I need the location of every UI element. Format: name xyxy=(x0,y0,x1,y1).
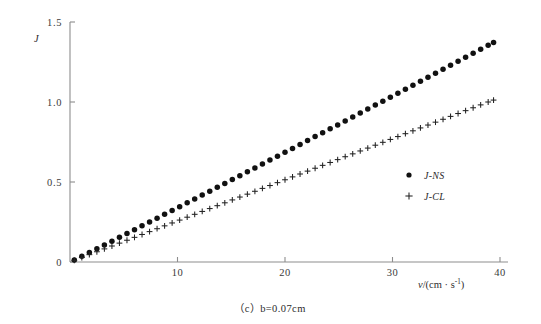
data-point-j-cl xyxy=(244,191,250,197)
data-point-j-ns xyxy=(463,55,469,61)
data-point-j-ns xyxy=(177,204,183,210)
data-point-j-ns xyxy=(192,196,198,202)
y-tick-label: 1.0 xyxy=(47,97,62,108)
data-point-j-ns xyxy=(199,192,205,198)
data-point-j-cl xyxy=(117,240,123,246)
x-tick-label: 30 xyxy=(387,267,399,278)
data-point-j-cl xyxy=(440,116,446,122)
legend-label-j-ns: J-NS xyxy=(424,170,445,181)
data-point-j-cl xyxy=(124,237,130,243)
x-tick-label: 20 xyxy=(279,267,291,278)
data-point-j-ns xyxy=(305,138,311,144)
data-point-j-ns xyxy=(403,86,409,92)
data-point-j-cl xyxy=(410,128,416,134)
data-point-j-cl xyxy=(312,165,318,171)
data-point-j-cl xyxy=(132,234,138,240)
data-point-j-ns xyxy=(395,90,401,96)
legend-marker-plus-icon xyxy=(405,192,412,199)
legend-marker-filled-circle-icon xyxy=(406,172,411,177)
data-point-j-cl xyxy=(162,223,168,229)
data-point-j-cl xyxy=(327,160,333,166)
data-point-j-ns xyxy=(169,208,175,214)
legend: J-NS J-CL xyxy=(405,170,445,202)
figure-container: 00.51.01.5 10203040 J v/(cm · s-1) J-NS … xyxy=(0,0,541,324)
data-point-j-ns xyxy=(275,153,281,159)
data-point-j-cl xyxy=(237,194,243,200)
data-point-j-cl xyxy=(192,211,198,217)
series-j-ns-points xyxy=(72,40,497,263)
data-point-j-cl xyxy=(365,145,371,151)
data-point-j-ns xyxy=(147,219,153,225)
data-point-j-cl xyxy=(222,200,228,206)
data-point-j-ns xyxy=(485,43,491,49)
data-point-j-cl xyxy=(177,217,183,223)
data-point-j-ns xyxy=(373,102,379,108)
data-point-j-cl xyxy=(109,243,115,249)
data-point-j-ns xyxy=(184,200,190,206)
data-point-j-cl xyxy=(418,125,424,131)
data-point-j-ns xyxy=(380,98,386,104)
data-point-j-ns xyxy=(335,122,341,128)
data-point-j-ns xyxy=(455,59,461,65)
figure-caption: （c）b=0.07cm xyxy=(234,303,305,314)
legend-label-j-cl: J-CL xyxy=(424,191,445,202)
x-tick-label: 10 xyxy=(172,267,184,278)
data-point-j-cl xyxy=(357,148,363,154)
data-point-j-cl xyxy=(290,174,296,180)
data-point-j-ns xyxy=(478,47,484,53)
data-point-j-ns xyxy=(342,118,348,124)
data-point-j-ns xyxy=(327,126,333,132)
scatter-plot: 00.51.01.5 10203040 J v/(cm · s-1) J-NS … xyxy=(0,0,541,324)
data-point-j-cl xyxy=(395,134,401,140)
x-axis-label-unit-open: /(cm · s xyxy=(423,279,455,291)
data-point-j-cl xyxy=(139,232,145,238)
data-point-j-cl xyxy=(380,139,386,145)
data-point-j-ns xyxy=(418,79,424,85)
data-point-j-cl xyxy=(154,226,160,232)
data-point-j-ns xyxy=(230,177,236,183)
y-axis-label: J xyxy=(34,33,40,44)
data-point-j-ns xyxy=(154,215,160,221)
data-point-j-cl xyxy=(463,108,469,114)
data-point-j-cl xyxy=(320,162,326,168)
data-point-j-ns xyxy=(365,106,371,112)
data-point-j-cl xyxy=(372,142,378,148)
data-point-j-ns xyxy=(215,185,221,191)
data-point-j-cl xyxy=(335,157,341,163)
data-point-j-cl xyxy=(455,111,461,117)
data-point-j-cl xyxy=(275,180,281,186)
data-point-j-cl xyxy=(260,186,266,192)
data-point-j-cl xyxy=(214,203,220,209)
data-point-j-ns xyxy=(267,157,273,163)
data-point-j-cl xyxy=(102,246,108,252)
y-tick-label: 0 xyxy=(56,257,62,268)
data-point-j-ns xyxy=(282,149,288,155)
data-point-j-ns xyxy=(350,114,356,120)
data-point-j-ns xyxy=(491,40,497,46)
data-point-j-cl xyxy=(470,105,476,111)
data-point-j-cl xyxy=(485,99,491,105)
data-point-j-cl xyxy=(305,168,311,174)
y-axis-ticks: 00.51.01.5 xyxy=(47,17,75,268)
data-point-j-ns xyxy=(252,165,258,171)
x-axis-ticks: 10203040 xyxy=(172,257,506,278)
data-point-j-cl xyxy=(282,177,288,183)
data-point-j-cl xyxy=(387,137,393,143)
data-point-j-cl xyxy=(433,119,439,125)
data-point-j-cl xyxy=(169,220,175,226)
data-point-j-cl xyxy=(350,151,356,157)
data-point-j-ns xyxy=(162,212,168,218)
data-point-j-cl xyxy=(491,97,497,103)
y-tick-label: 0.5 xyxy=(47,177,62,188)
data-point-j-ns xyxy=(297,142,303,148)
data-point-j-cl xyxy=(267,183,273,189)
data-point-j-ns xyxy=(290,146,296,152)
y-tick-label: 1.5 xyxy=(47,17,62,28)
data-point-j-ns xyxy=(222,181,228,187)
data-point-j-cl xyxy=(425,122,431,128)
data-point-j-ns xyxy=(440,67,446,73)
data-point-j-ns xyxy=(132,227,138,233)
data-point-j-ns xyxy=(388,94,394,100)
data-point-j-ns xyxy=(124,231,130,237)
data-point-j-cl xyxy=(252,188,258,194)
